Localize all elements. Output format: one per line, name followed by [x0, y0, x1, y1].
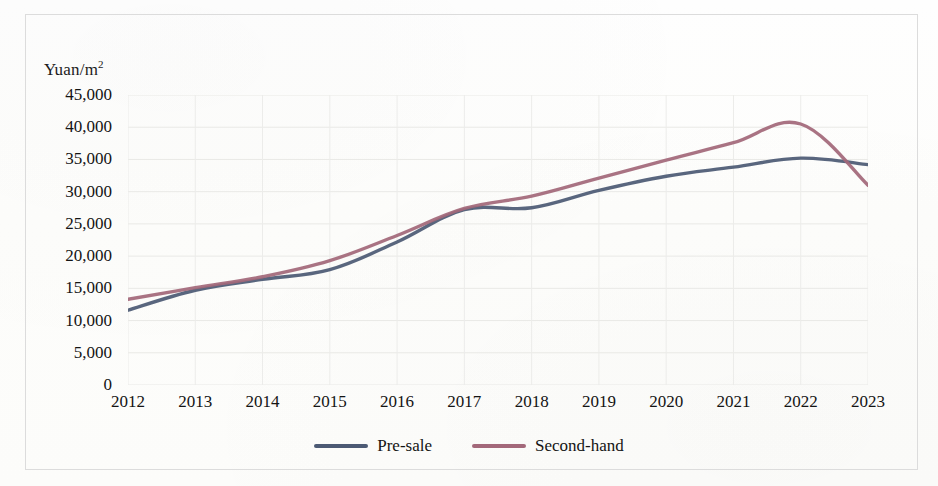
plot-area	[128, 95, 868, 385]
chart-legend: Pre-saleSecond-hand	[0, 436, 938, 456]
data-series-layer	[128, 122, 868, 310]
y-axis-tick: 20,000	[34, 246, 112, 266]
y-axis-tick: 15,000	[34, 278, 112, 298]
series-line	[128, 158, 868, 310]
y-axis-tick: 30,000	[34, 182, 112, 202]
x-axis-tick: 2022	[766, 392, 836, 412]
x-axis-tick: 2021	[698, 392, 768, 412]
x-axis-tick-labels: 2012201320142015201620172018201920202021…	[0, 392, 938, 418]
gridlines	[128, 95, 868, 385]
y-axis-tick: 10,000	[34, 311, 112, 331]
x-axis-tick: 2016	[362, 392, 432, 412]
line-chart-svg	[128, 95, 868, 385]
x-axis-tick: 2014	[228, 392, 298, 412]
scanned-page: Yuan/m2 45,00040,00035,00030,00025,00020…	[0, 0, 938, 486]
y-axis-tick: 5,000	[34, 343, 112, 363]
legend-label: Second-hand	[535, 436, 624, 456]
legend-label: Pre-sale	[377, 436, 432, 456]
x-axis-tick: 2012	[93, 392, 163, 412]
series-line	[128, 122, 868, 299]
x-axis-tick: 2023	[833, 392, 903, 412]
y-axis-tick: 35,000	[34, 149, 112, 169]
legend-color-swatch	[314, 444, 368, 448]
x-axis-tick: 2018	[497, 392, 567, 412]
legend-color-swatch	[472, 444, 526, 448]
y-axis-tick: 45,000	[34, 85, 112, 105]
x-axis-tick: 2020	[631, 392, 701, 412]
y-axis-tick: 25,000	[34, 214, 112, 234]
legend-item[interactable]: Second-hand	[472, 436, 624, 456]
y-axis-tick: 40,000	[34, 117, 112, 137]
x-axis-tick: 2019	[564, 392, 634, 412]
x-axis-tick: 2015	[295, 392, 365, 412]
x-axis-tick: 2013	[160, 392, 230, 412]
x-axis-tick: 2017	[429, 392, 499, 412]
legend-item[interactable]: Pre-sale	[314, 436, 432, 456]
